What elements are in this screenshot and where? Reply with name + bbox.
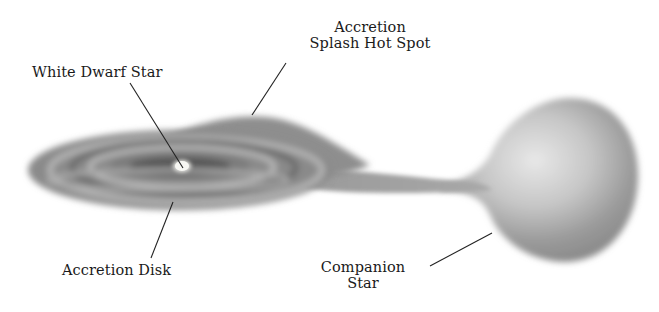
- companion-star-leader-line: [430, 233, 492, 266]
- companion-star: [440, 98, 638, 262]
- hot-spot-leader-line: [252, 63, 286, 115]
- companion-star-label: Companion Star: [308, 259, 418, 291]
- hot-spot-label: Accretion Splash Hot Spot: [270, 19, 470, 51]
- white-dwarf-label: White Dwarf Star: [32, 64, 162, 80]
- accretion-disk-leader-line: [151, 202, 173, 258]
- accretion-disk-label: Accretion Disk: [62, 262, 171, 278]
- hot-spot-label-line2: Splash Hot Spot: [270, 35, 470, 51]
- companion-star-label-line2: Star: [308, 275, 418, 291]
- binary-star-diagram: White Dwarf Star Accretion Splash Hot Sp…: [0, 0, 659, 312]
- hot-spot-label-line1: Accretion: [270, 19, 470, 35]
- companion-star-label-line1: Companion: [308, 259, 418, 275]
